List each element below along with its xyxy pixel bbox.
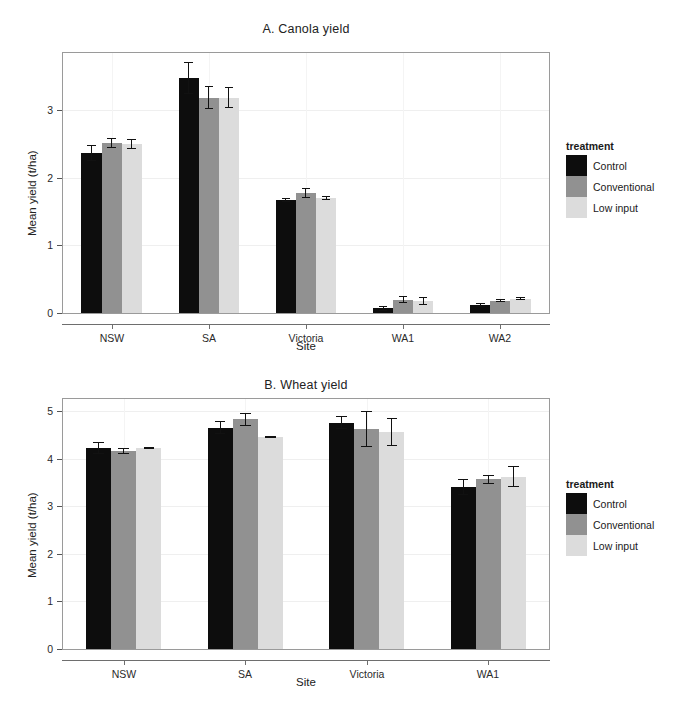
legend-swatch-icon — [566, 197, 587, 218]
x-axis-line — [62, 660, 550, 661]
legend-swatch-icon — [566, 155, 587, 176]
bar-nsw-control[interactable] — [86, 448, 111, 649]
bar-nsw-low-input[interactable] — [122, 144, 142, 313]
error-bar — [265, 436, 276, 438]
bar-sa-control[interactable] — [179, 78, 199, 313]
gridline-y — [63, 411, 549, 412]
error-bar — [240, 413, 251, 426]
bar-victoria-conventional[interactable] — [354, 429, 379, 649]
bar-sa-conventional[interactable] — [233, 419, 258, 649]
legend-item-label: Control — [593, 498, 627, 510]
y-tick-mark — [57, 411, 62, 412]
error-bar — [184, 62, 192, 94]
panel-wheat-yield: B. Wheat yield 012345NSWSAVictoriaWA1 Me… — [0, 360, 689, 719]
legend-item-label: Conventional — [593, 519, 654, 531]
legend-canola: treatment ControlConventionalLow input — [566, 140, 654, 218]
error-bar — [458, 479, 469, 494]
bar-wa2-low-input[interactable] — [510, 299, 530, 313]
error-bar — [508, 466, 519, 487]
x-tick-mark — [367, 660, 368, 665]
x-tick-mark — [306, 324, 307, 329]
y-tick-label: 4 — [47, 453, 53, 465]
legend-swatch-icon — [566, 493, 587, 514]
error-bar — [87, 145, 95, 161]
y-tick-label: 5 — [47, 405, 53, 417]
y-tick-mark — [57, 649, 62, 650]
x-tick-mark — [245, 660, 246, 665]
legend-swatch-icon — [566, 514, 587, 535]
y-tick-label: 1 — [47, 239, 53, 251]
error-bar — [93, 442, 104, 454]
plot-area-wheat — [62, 398, 550, 650]
plot-inner-wheat — [63, 399, 549, 649]
panel-b-title: B. Wheat yield — [62, 378, 550, 392]
bar-wa1-low-input[interactable] — [501, 477, 526, 649]
x-tick-mark — [112, 324, 113, 329]
y-tick-label: 0 — [47, 643, 53, 655]
bar-sa-conventional[interactable] — [199, 98, 219, 313]
bar-sa-low-input[interactable] — [258, 437, 283, 649]
legend-item-control[interactable]: Control — [566, 493, 654, 514]
error-bar — [419, 297, 427, 305]
bar-nsw-conventional[interactable] — [102, 143, 122, 313]
legend-item-conventional[interactable]: Conventional — [566, 514, 654, 535]
bar-wa1-control[interactable] — [451, 487, 476, 649]
bar-sa-low-input[interactable] — [219, 98, 239, 313]
legend-wheat: treatment ControlConventionalLow input — [566, 478, 654, 556]
x-tick-mark — [500, 324, 501, 329]
legend-item-low-input[interactable]: Low input — [566, 197, 654, 218]
legend-rows: ControlConventionalLow input — [566, 493, 654, 556]
error-bar — [107, 138, 115, 147]
y-tick-mark — [57, 245, 62, 246]
bar-sa-control[interactable] — [208, 428, 233, 649]
bar-nsw-conventional[interactable] — [111, 451, 136, 649]
x-axis-title-wheat: Site — [62, 676, 550, 688]
figure-canvas: A. Canola yield 0123NSWSAVictoriaWA1WA2 … — [0, 0, 689, 719]
gridline-x — [500, 53, 501, 313]
y-tick-mark — [57, 178, 62, 179]
legend-item-label: Conventional — [593, 181, 654, 193]
legend-swatch-icon — [566, 176, 587, 197]
error-bar — [387, 418, 398, 447]
x-tick-mark — [209, 324, 210, 329]
bar-nsw-low-input[interactable] — [136, 448, 161, 649]
legend-title: treatment — [566, 140, 654, 152]
error-bar — [118, 448, 129, 455]
y-tick-mark — [57, 601, 62, 602]
legend-item-low-input[interactable]: Low input — [566, 535, 654, 556]
gridline-x — [403, 53, 404, 313]
legend-title: treatment — [566, 478, 654, 490]
error-bar — [144, 447, 155, 450]
bar-victoria-low-input[interactable] — [379, 432, 404, 649]
bar-nsw-control[interactable] — [81, 153, 101, 313]
bar-wa2-conventional[interactable] — [490, 301, 510, 313]
error-bar — [282, 198, 290, 202]
y-axis-title-canola: Mean yield (t/ha) — [26, 150, 38, 236]
legend-item-label: Control — [593, 160, 627, 172]
error-bar — [302, 188, 310, 197]
x-axis-title-canola: Site — [62, 340, 550, 352]
bar-victoria-control[interactable] — [329, 423, 354, 649]
legend-item-control[interactable]: Control — [566, 155, 654, 176]
y-tick-label: 0 — [47, 307, 53, 319]
error-bar — [225, 87, 233, 107]
y-tick-label: 3 — [47, 104, 53, 116]
error-bar — [483, 475, 494, 485]
legend-item-conventional[interactable]: Conventional — [566, 176, 654, 197]
x-tick-mark — [124, 660, 125, 665]
error-bar — [336, 416, 347, 429]
y-tick-mark — [57, 110, 62, 111]
y-axis-title-wheat: Mean yield (t/ha) — [26, 492, 38, 578]
legend-rows: ControlConventionalLow input — [566, 155, 654, 218]
bar-victoria-control[interactable] — [276, 200, 296, 313]
error-bar — [215, 421, 226, 434]
bar-victoria-conventional[interactable] — [296, 193, 316, 313]
plot-area-canola — [62, 52, 550, 314]
bar-victoria-low-input[interactable] — [316, 198, 336, 313]
bar-wa1-conventional[interactable] — [476, 479, 501, 649]
plot-inner-canola — [63, 53, 549, 313]
error-bar — [476, 303, 484, 307]
error-bar — [127, 139, 135, 148]
y-tick-label: 2 — [47, 172, 53, 184]
y-tick-label: 3 — [47, 500, 53, 512]
